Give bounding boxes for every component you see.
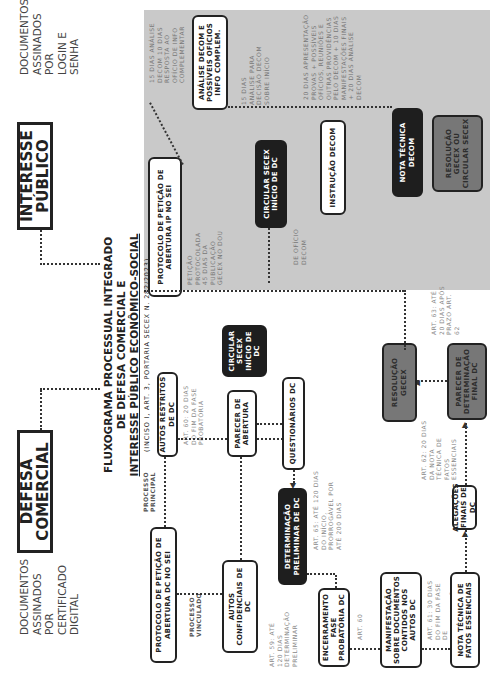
dc-protocolo-box: PROTOCOLO DE PETIÇÃO DE ABERTURA DC NO S… <box>150 527 177 663</box>
docs-certificado-note: DOCUMENTOS ASSINADOS POR CERTIFICADO DIG… <box>18 567 64 635</box>
dc-autos-confidenciais-box: AUTOS CONFIDENCIAIS DE DC <box>222 560 258 653</box>
dc-processo-principal-label: PROCESSO PRINCIPAL <box>142 472 156 512</box>
connector-circular-left <box>268 228 270 283</box>
ip-analise-note: 15 DIAS ANÁLISE DECOM 10 DIAS RESPOSTA A… <box>148 11 188 83</box>
dc-parecer-final-note: ART. 63: ATÉ 20 DIAS APÓS PRAZO ART. 62 <box>430 285 470 335</box>
connector-resolucao-panel <box>404 290 406 350</box>
ip-de-oficio-label: DE OFÍCIO DECOM <box>292 225 312 265</box>
dc-determinacao-preliminar-box: DETERMINAÇÃO PRELIMINAR DE DC <box>278 488 307 585</box>
ip-protocolo-note: PETIÇÃO PROTOCOLADA 45 DIAS DA PUBLICAÇÃ… <box>186 230 226 285</box>
dc-alegacoes-box: ALEGAÇÕES FINAIS DE DC <box>452 485 477 530</box>
connector-parecer-resolucao <box>417 380 447 382</box>
title-line1: FLUXOGRAMA PROCESSUAL INTEGRADO <box>102 215 115 495</box>
connector-determinacao-encerramento <box>307 573 335 575</box>
connector-manifestacao-nota <box>422 648 450 650</box>
connector-questionarios-determinacao <box>293 470 295 483</box>
connector-defesa-title-v <box>40 388 100 390</box>
ip-circular-inicio-box: CIRCULAR SECEX INÍCIO DE DC <box>255 140 287 228</box>
connector-defesa-title <box>40 390 42 430</box>
dc-manifestacao-box: MANIFESTAÇÃO SOBRE DOCUMENTOS CONTIDOS N… <box>380 572 422 668</box>
connector-alegacoes-parecer <box>465 423 467 485</box>
dc-questionarios-box: QUESTIONÁRIOS DC <box>282 377 305 470</box>
ip-instrucao-box: INSTRUÇÃO DECOM <box>320 120 346 215</box>
connector-title-interesse <box>40 230 42 265</box>
ip-protocolo-box: PROTOCOLO DE PETIÇÃO DE ABERTURA IP NO S… <box>148 157 182 297</box>
dc-parecer-abertura-box: PARECER DE ABERTURA <box>227 390 257 457</box>
dc-alegacoes-note: ART. 62: 20 DIAS DA NOTA TÉCNICA DE FATO… <box>420 420 460 480</box>
connector-parecer-questionarios <box>257 423 282 425</box>
title-line3: INTERESSE PÚBLICO ECONÔMICO-SOCIAL <box>128 215 141 495</box>
arrow-nota-to-alegacoes: ▶ <box>461 531 469 537</box>
dc-autos-confidenciais-note: ART. 59: ATÉ 120 DIAS DETERMINAÇÃO PRELI… <box>268 607 292 667</box>
dc-circular-secex-box: CIRCULAR SECEX INÍCIO DE DC <box>222 325 267 377</box>
dc-processo-vinculado-label: PROCESSO VINCULADO <box>188 597 202 637</box>
dc-determinacao-preliminar-note: ART. 65: ATÉ 120 DIAS DO INÍCIO, PRORROG… <box>312 470 336 550</box>
dc-autos-restritos-note: ART. 60: 20 DIAS DO FIM DA FASE PROBATÓR… <box>182 377 206 445</box>
connector-confidenciais-right <box>240 457 242 560</box>
dc-encerramento-box: ENCERRAMENTO FASE PROBATÓRIA DC <box>318 588 350 667</box>
ip-circular-note: 15 DIAS ANÁLISE PARA DECISÃO DECOM SOBRE… <box>240 45 272 105</box>
interesse-publico-box: INTERESSE PÚBLICO <box>17 122 53 230</box>
dc-manifestacao-note: ART. 61: 30 DIAS DO FIM DA FASE DE MANIF… <box>426 572 450 640</box>
dc-nota-tecnica-fatos-box: NOTA TÉCNICA DE FATOS ESSENCIAIS <box>450 572 480 668</box>
docs-login-note: DOCUMENTOS ASSINADOS POR LOGIN E SENHA <box>18 17 58 75</box>
arrow-alegacoes-to-parecer: ▶ <box>461 422 469 428</box>
dc-parecer-final-box: PARECER DE DETERMINAÇÃO FINAL DC <box>447 343 487 420</box>
connector-title-interesse-v <box>40 263 100 265</box>
ip-nota-tecnica-box: NOTA TÉCNICA DECOM <box>392 108 423 197</box>
panel-bottom-dotted <box>144 290 404 292</box>
dc-encerramento-note: ART. 60 <box>356 610 366 640</box>
flowchart-canvas: DOCUMENTOS ASSINADOS POR LOGIN E SENHA I… <box>0 0 498 695</box>
dc-resolucao-box: RESOLUÇÃO GECEX <box>382 343 417 422</box>
ip-analise-box: ANÁLISE DECOM E POSSÍVEIS OFÍCIOS INFO C… <box>192 15 228 110</box>
connector-protocolo-autos-restritos <box>164 457 166 527</box>
defesa-comercial-box: DEFESA COMERCIAL <box>17 430 53 553</box>
dc-autos-restritos-box: AUTOS RESTRITOS DE DC <box>157 372 178 457</box>
connector-encerramento-manifestacao <box>350 648 380 650</box>
title-line2: DE DEFESA COMERCIAL E <box>115 215 128 495</box>
page-title: FLUXOGRAMA PROCESSUAL INTEGRADO DE DEFES… <box>102 215 144 495</box>
ip-resolucao-box: RESOLUÇÃO GECEX OU CIRCULAR SECEX <box>432 115 483 192</box>
ip-instrucao-note: 20 DIAS APRESENTAÇÃO PROVAS + POSSÍVEIS … <box>302 10 387 100</box>
connector-analise-nota <box>228 106 392 108</box>
